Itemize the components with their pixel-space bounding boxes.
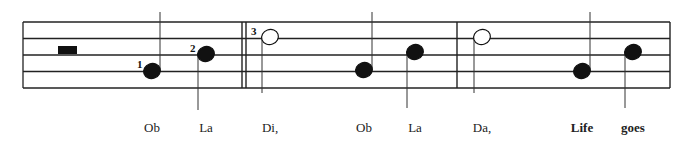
- half-note-icon: [471, 27, 492, 47]
- quarter-note-icon: [353, 60, 374, 80]
- half-rest-icon: [58, 46, 77, 54]
- lyric-syllable: La: [199, 120, 213, 136]
- quarter-note-icon: [195, 44, 216, 64]
- quarter-note-icon: [141, 61, 162, 81]
- lyric-syllable: Ob: [356, 120, 372, 136]
- note-number-marker: 2: [190, 42, 196, 54]
- lyric-syllable: goes: [621, 120, 645, 136]
- lyric-syllable: Ob: [144, 120, 160, 136]
- lyric-syllable: Life: [571, 120, 593, 136]
- note-number-marker: 3: [251, 25, 257, 37]
- lyric-syllable: Di,: [262, 120, 278, 136]
- quarter-note-icon: [404, 42, 425, 62]
- quarter-note-icon: [571, 61, 592, 81]
- half-note-icon: [259, 27, 280, 47]
- lyric-syllable: Da,: [473, 120, 491, 136]
- note-number-marker: 1: [137, 58, 143, 70]
- lyric-syllable: La: [408, 120, 422, 136]
- quarter-note-icon: [622, 42, 643, 62]
